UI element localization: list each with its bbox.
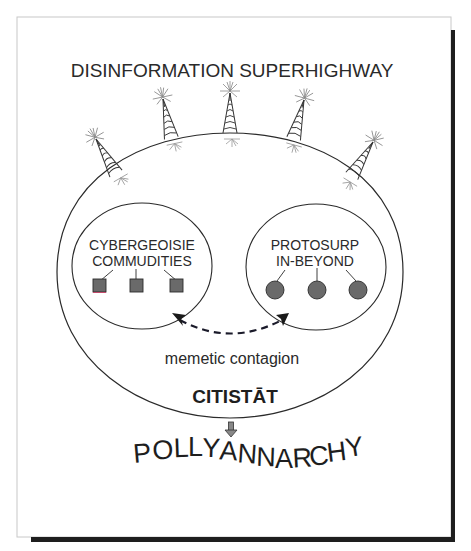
link-label: memetic contagion — [165, 350, 299, 367]
outcome-letter: L — [173, 433, 189, 464]
group-label-line2: COMMUDITIES — [92, 253, 192, 269]
outcome-letter: N — [237, 438, 259, 469]
group-label-line1: PROTOSURP — [271, 237, 359, 253]
outcome-letter: P — [132, 438, 153, 469]
outcome-letter: Y — [202, 433, 221, 464]
frame-shadow-right — [451, 30, 455, 542]
frame-shadow-bottom — [31, 537, 455, 542]
member-circle-icon — [308, 281, 326, 299]
group-label-line2: IN-BEYOND — [276, 253, 354, 269]
diagram-canvas: DISINFORMATION SUPERHIGHWAY CYBERGEOISIE… — [0, 0, 471, 551]
member-square-icon — [170, 279, 183, 292]
group-label-line1: CYBERGEOISIE — [89, 237, 195, 253]
outcome-letter: A — [275, 444, 293, 474]
member-circle-icon — [266, 281, 284, 299]
member-circle-icon — [349, 281, 367, 299]
outcome-letter: N — [256, 442, 277, 473]
outcome-letter: L — [188, 432, 203, 462]
outer-region-label: CITISTĀT — [192, 386, 278, 407]
member-square-icon — [93, 279, 106, 292]
member-square-icon — [130, 279, 143, 292]
outcome-letter: A — [219, 435, 239, 466]
outcome-letter: O — [151, 434, 174, 465]
diagram-title: DISINFORMATION SUPERHIGHWAY — [71, 60, 394, 81]
